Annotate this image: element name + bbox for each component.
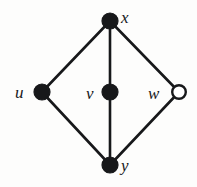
vertex-label-x: x	[121, 9, 129, 26]
graph-node-v	[102, 84, 118, 100]
vertex-label-w: w	[148, 85, 159, 102]
graph-canvas	[0, 0, 197, 187]
graph-figure: x u v w y	[0, 0, 197, 187]
vertex-label-y: y	[121, 157, 129, 174]
vertex-label-u: u	[15, 84, 24, 101]
graph-edge-x-u	[42, 21, 110, 92]
graph-node-y	[102, 157, 118, 173]
vertex-label-v: v	[86, 85, 94, 102]
graph-edge-x-w	[110, 21, 179, 92]
graph-node-w	[172, 85, 186, 99]
graph-node-u	[34, 84, 50, 100]
graph-edge-u-y	[42, 92, 110, 165]
graph-edge-w-y	[110, 92, 179, 165]
graph-node-x	[102, 13, 118, 29]
